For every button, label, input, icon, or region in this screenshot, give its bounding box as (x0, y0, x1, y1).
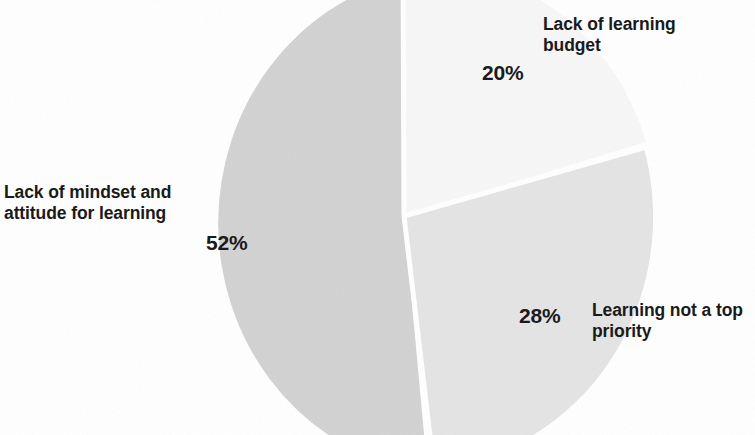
slice-label-lack-of-learning-budget: Lack of learning budget (543, 14, 743, 57)
pie-chart-figure: Lack of learning budget 20% Lack of mind… (0, 0, 755, 435)
slice-label-learning-not-a-top-priority: Learning not a top priority (592, 300, 755, 343)
slice-value-learning-not-a-top-priority: 28% (519, 303, 589, 329)
slice-value-lack-of-mindset: 52% (206, 230, 276, 256)
slice-value-lack-of-learning-budget: 20% (482, 60, 552, 86)
slice-label-lack-of-mindset: Lack of mindset and attitude for learnin… (4, 182, 204, 225)
